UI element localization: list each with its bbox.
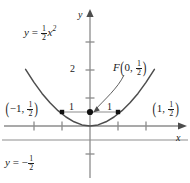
left-point-x: −1 (10, 102, 22, 114)
directrix-numerator: 1 (28, 155, 34, 163)
directrix-denominator: 2 (28, 163, 34, 172)
left-point-label: (−1, 12) (5, 101, 39, 119)
left-point-y-denominator: 2 (27, 109, 33, 118)
y-tick-label-2: 2 (70, 64, 75, 74)
curve-equation-label: y = 12x2 (24, 25, 56, 43)
distance-label-left: 1 (69, 102, 74, 112)
left-point-y-numerator: 1 (27, 101, 33, 109)
x-axis-arrowhead (178, 122, 187, 129)
y-axis-arrowhead (86, 9, 93, 17)
left-point-marker (60, 110, 64, 114)
curve-eq-numerator: 1 (41, 25, 47, 33)
right-point-label: (1, 12) (152, 101, 179, 119)
directrix-label: y = −12 (5, 155, 35, 173)
right-point-y-numerator: 1 (168, 101, 174, 109)
left-point-y-fraction: 12 (27, 101, 33, 119)
focus-point (87, 109, 93, 115)
focus-paren-close: ) (143, 59, 147, 75)
right-point-y-denominator: 2 (168, 109, 174, 118)
focus-label: F(0, 12) (113, 60, 147, 78)
curve-eq-denominator: 2 (41, 33, 47, 42)
x-axis-label: x (176, 133, 180, 143)
directrix-fraction: 12 (28, 155, 34, 173)
right-point-paren-open: ( (153, 100, 157, 116)
y-axis-label: y (78, 10, 82, 20)
focus-y-denominator: 2 (136, 68, 142, 77)
focus-y-fraction: 12 (136, 60, 142, 78)
focus-name: F (113, 61, 120, 73)
left-point-paren-close: ) (34, 100, 38, 116)
right-point-paren-close: ) (175, 100, 179, 116)
curve-eq-exponent: 2 (52, 24, 56, 33)
parabola-figure: y = 12x2 F(0, 12) (−1, 12) (1, 12) y = −… (0, 0, 190, 183)
focus-y-numerator: 1 (136, 60, 142, 68)
directrix-sign: − (22, 156, 28, 168)
right-point-y-fraction: 12 (168, 101, 174, 119)
focus-paren-open: ( (120, 59, 124, 75)
left-point-paren-open: ( (6, 100, 10, 116)
curve-eq-fraction: 12 (41, 25, 47, 43)
distance-label-right: 1 (107, 102, 112, 112)
right-point-marker (116, 110, 120, 114)
